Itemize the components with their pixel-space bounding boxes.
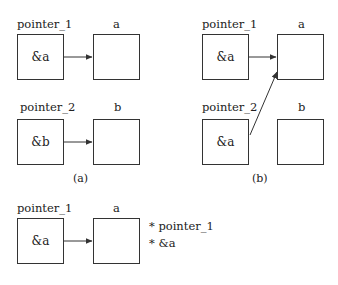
pointer-2-box: &a (202, 119, 249, 165)
pointer-1-box: &a (17, 34, 64, 80)
pointer-1-value: &a (32, 50, 50, 64)
deref-pointer-annotation: * pointer_1 (149, 219, 214, 233)
var-b-box (277, 119, 324, 165)
pointer-2-label: pointer_2 (20, 100, 75, 114)
var-a-label: a (113, 201, 120, 215)
var-b-label: b (298, 100, 305, 114)
var-a-box (277, 34, 324, 80)
pointer-1-label: pointer_1 (17, 201, 72, 215)
pointer-1-label: pointer_1 (17, 17, 72, 31)
var-a-box (93, 218, 140, 264)
caption-a: (a) (73, 172, 88, 185)
var-a-label: a (113, 17, 120, 31)
pointer-1-value: &a (32, 234, 50, 248)
var-b-label: b (114, 100, 121, 114)
var-a-label: a (298, 17, 305, 31)
pointer-1-label: pointer_1 (202, 17, 257, 31)
pointer-2-value: &a (217, 135, 235, 149)
pointer-1-box: &a (17, 218, 64, 264)
var-b-box (93, 119, 140, 165)
pointer-1-value: &a (217, 50, 235, 64)
var-a-box (93, 34, 140, 80)
deref-address-annotation: * &a (149, 236, 176, 250)
pointer-2-value: &b (31, 135, 49, 149)
pointer-2-label: pointer_2 (202, 100, 257, 114)
pointer-2-box: &b (17, 119, 64, 165)
pointer-1-box: &a (202, 34, 249, 80)
caption-b: (b) (252, 172, 268, 185)
pointer-diagram: pointer_1 a &a pointer_2 b &b (a) pointe… (0, 0, 338, 285)
